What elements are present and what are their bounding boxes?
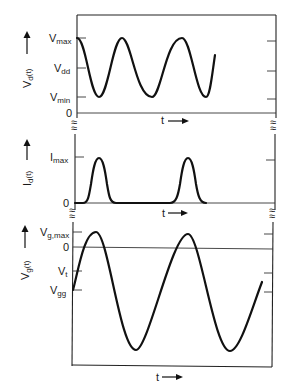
tick-vgg: Vgg bbox=[50, 284, 66, 298]
drain-voltage-curve bbox=[77, 38, 215, 97]
xlabel-bottom: t bbox=[156, 371, 183, 383]
svg-text:t: t bbox=[162, 207, 165, 219]
axis-break-left-2b: ≈ bbox=[69, 210, 75, 222]
panel-drain-voltage: Vmax Vdd Vmin 0 Vd(t) t bbox=[21, 15, 276, 126]
gate-voltage-curve bbox=[73, 232, 262, 351]
bottom-border bbox=[72, 365, 272, 367]
xlabel-mid: t bbox=[162, 207, 188, 219]
svg-text:Vd(t): Vd(t) bbox=[21, 68, 35, 88]
svg-text:t: t bbox=[161, 114, 164, 126]
svg-text:Id(t): Id(t) bbox=[21, 171, 35, 186]
svg-text:t: t bbox=[156, 371, 159, 383]
tick-vmax: Vmax bbox=[49, 32, 71, 46]
ylabel-drain-current: Id(t) bbox=[21, 139, 35, 186]
tick-vmin: Vmin bbox=[50, 91, 70, 105]
drain-current-curve bbox=[75, 158, 206, 203]
panel-gate-voltage: Vg,max 0 Vt Vgg Vg(t) t bbox=[19, 222, 273, 383]
left-axis-bottom bbox=[72, 222, 73, 366]
ylabel-drain-voltage: Vd(t) bbox=[21, 31, 35, 88]
zero-line-bottom bbox=[73, 247, 273, 249]
panel-drain-current: Imax 0 Id(t) t bbox=[21, 134, 275, 219]
right-axis-bottom bbox=[272, 222, 273, 367]
waveform-diagram: Vmax Vdd Vmin 0 Vd(t) t ≈ ≈ ≈ ≈ Imax 0 I… bbox=[0, 0, 290, 390]
ylabel-gate-voltage: Vg(t) bbox=[19, 225, 33, 280]
xlabel-top: t bbox=[161, 114, 189, 126]
axis-break-right-1b: ≈ bbox=[270, 122, 276, 134]
tick-vdd: Vdd bbox=[54, 62, 70, 76]
tick-vt: Vt bbox=[58, 265, 68, 279]
svg-text:Vg(t): Vg(t) bbox=[19, 260, 33, 280]
axis-break-left-1b: ≈ bbox=[71, 122, 77, 134]
axis-break-right-2b: ≈ bbox=[269, 210, 275, 222]
tick-imax: Imax bbox=[50, 151, 68, 165]
tick-zero-bottom: 0 bbox=[63, 241, 69, 253]
tick-vgmax: Vg,max bbox=[40, 226, 69, 240]
